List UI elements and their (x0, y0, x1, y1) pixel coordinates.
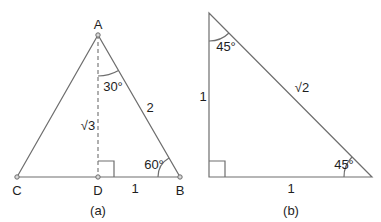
point-a (96, 33, 100, 37)
point-d (96, 175, 100, 179)
point-b (178, 175, 182, 179)
horizontal-leg-length: 1 (287, 181, 294, 196)
side-ab-length: 2 (146, 100, 153, 115)
angle-bottom-right-label: 45° (334, 157, 354, 172)
diagram-canvas: A C D B 1 2 √3 30° 60° (a) 45° 1 √2 45° … (0, 0, 381, 222)
caption-a: (a) (90, 203, 106, 218)
angle-b-label: 60° (144, 157, 164, 172)
figure-a: A C D B 1 2 √3 30° 60° (a) (12, 17, 184, 218)
hypotenuse-length: √2 (295, 80, 309, 95)
right-isosceles-triangle (209, 13, 372, 177)
figure-b: 45° 1 √2 45° 1 (b) (199, 13, 372, 218)
point-c (15, 175, 19, 179)
right-angle-marker-d (98, 161, 114, 177)
right-angle-marker-b (209, 161, 225, 177)
label-b: B (176, 183, 185, 198)
vertical-leg-length: 1 (199, 89, 206, 104)
angle-arc-a (98, 71, 119, 77)
label-a: A (94, 17, 103, 32)
side-db-length: 1 (131, 181, 138, 196)
label-c: C (12, 183, 21, 198)
caption-b: (b) (283, 203, 299, 218)
angle-top-label: 45° (216, 39, 236, 54)
side-ad-length: √3 (81, 118, 95, 133)
angle-a-label: 30° (103, 79, 123, 94)
label-d: D (93, 183, 102, 198)
